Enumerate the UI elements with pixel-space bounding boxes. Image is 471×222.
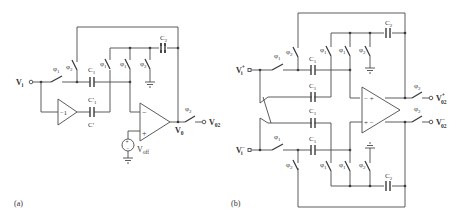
node-label-v0: V0 bbox=[175, 126, 184, 136]
svg-text:φ2: φ2 bbox=[286, 48, 293, 57]
output-terminal-v02-pos bbox=[429, 96, 433, 100]
capacitor-c1-cross-bot: C1 bbox=[309, 107, 317, 128]
svg-text:C1: C1 bbox=[309, 135, 317, 144]
switch-phi1-mid-top-l: φ1 bbox=[320, 46, 331, 97]
opamp-plus-label: + bbox=[142, 129, 147, 138]
input-terminal-vi bbox=[29, 80, 33, 84]
switch-phi1-mid-right: φ1 bbox=[120, 59, 130, 82]
svg-text:φ2: φ2 bbox=[414, 105, 421, 114]
opamp-b-differential: − + + − bbox=[362, 87, 400, 133]
switch-phi2-out-pos: φ2 bbox=[412, 82, 429, 98]
voltage-source-voff: + − Voff bbox=[122, 139, 149, 155]
svg-text:C2: C2 bbox=[385, 19, 393, 28]
capacitor-c2-bot: C2 bbox=[384, 172, 393, 191]
panel-b: V+i φ1 φ2 C1 φ1 bbox=[231, 13, 447, 208]
switch-phi1-mid-left: φ1 bbox=[100, 59, 110, 69]
svg-text:φ1: φ1 bbox=[274, 52, 281, 61]
switch-phi2-fb-bot: φ2 bbox=[286, 150, 298, 170]
switch-phi2-gnd-bot: φ2 bbox=[359, 161, 370, 186]
switch-label: φ2 bbox=[185, 105, 192, 114]
switch-phi2-ground: φ2 bbox=[140, 59, 150, 82]
svg-text:φ1: φ1 bbox=[274, 133, 281, 142]
svg-text:−: − bbox=[126, 145, 129, 151]
capacitor-c2-top: C2 bbox=[384, 19, 393, 38]
svg-text:C1: C1 bbox=[309, 55, 317, 64]
panel-caption-a: (a) bbox=[14, 199, 23, 208]
switch-phi2-fb-top: φ2 bbox=[286, 47, 298, 70]
svg-text:C1: C1 bbox=[309, 107, 317, 116]
input-terminal-vi-neg bbox=[248, 149, 251, 152]
capacitor-c1: C1 bbox=[77, 66, 130, 87]
switch-label: φ2 bbox=[66, 63, 73, 72]
switch-phi1-mid-bot-r: φ1 bbox=[339, 161, 350, 186]
inverter-gain-minus1: −1 bbox=[58, 99, 77, 125]
capacitor-c1-top: C1 bbox=[298, 55, 350, 75]
ground-icon bbox=[365, 68, 375, 73]
output-terminal-v02-neg bbox=[429, 120, 433, 124]
output-label-v02-pos: V+02 bbox=[436, 92, 447, 105]
switch-phi2-gnd-top: φ2 bbox=[359, 46, 370, 68]
svg-text:C1: C1 bbox=[309, 82, 317, 91]
svg-text:φ2: φ2 bbox=[286, 161, 293, 170]
output-terminal-v02 bbox=[202, 120, 206, 124]
input-label-vi-pos: V+i bbox=[236, 64, 245, 76]
inverter-gain-label: −1 bbox=[60, 109, 67, 116]
opamp-bot-labels: + − bbox=[364, 119, 374, 127]
input-label-vi: Vi bbox=[16, 78, 24, 88]
input-label-vi-neg: V−i bbox=[236, 144, 245, 156]
voff-label: Voff bbox=[137, 145, 149, 155]
switch-phi1-in-neg: φ1 bbox=[272, 133, 298, 150]
switch-phi1-input: φ1 bbox=[51, 65, 77, 82]
ground-icon bbox=[145, 82, 155, 87]
ground-icon bbox=[365, 143, 375, 148]
panel-a: Vi φ1 φ2 C1 −1 bbox=[14, 27, 221, 208]
opamp-top-labels: − + bbox=[364, 95, 374, 103]
opamp-minus-label: − bbox=[142, 108, 147, 117]
panel-caption-b: (b) bbox=[231, 199, 241, 208]
ground-icon bbox=[123, 158, 133, 163]
svg-text:C2: C2 bbox=[385, 172, 393, 181]
capacitor-label: C'1 bbox=[88, 96, 97, 105]
switch-phi1-mid-top-r: φ1 bbox=[339, 46, 350, 70]
output-label-v02: V02 bbox=[209, 118, 221, 128]
capacitor-label: C1 bbox=[88, 66, 96, 75]
input-terminal-vi-pos bbox=[248, 69, 251, 72]
capacitor-label: C2 bbox=[160, 34, 168, 43]
switch-label: φ1 bbox=[53, 65, 60, 74]
switch-phi2-feedback: φ2 bbox=[66, 60, 77, 82]
switch-phi1-in-pos: φ1 bbox=[272, 52, 298, 70]
switch-phi2-out-neg: φ2 bbox=[412, 105, 429, 122]
opamp-a: − + bbox=[140, 103, 170, 141]
capacitor-c1-cross-top: C1 bbox=[309, 82, 317, 102]
output-label-v02-neg: V−02 bbox=[436, 116, 447, 129]
capacitor-c1-bot: C1 bbox=[298, 135, 350, 155]
circuit-figure: Vi φ1 φ2 C1 −1 bbox=[0, 0, 471, 222]
svg-text:φ2: φ2 bbox=[414, 82, 421, 91]
capacitor-label-c-prime: C' bbox=[88, 121, 94, 129]
switch-phi2-output: φ2 bbox=[185, 105, 202, 122]
